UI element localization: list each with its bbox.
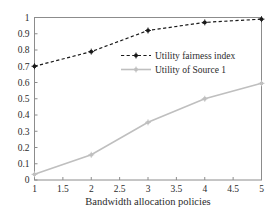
- x-tick-label: 4: [202, 184, 207, 194]
- y-tick-label: 0.2: [18, 143, 30, 153]
- chart-background: [0, 0, 279, 214]
- y-tick-label: 0.9: [18, 29, 30, 39]
- figure-container: 00.10.20.30.40.50.60.70.80.91 11.522.533…: [0, 0, 279, 214]
- y-axis-tick-labels: 00.10.20.30.40.50.60.70.80.91: [18, 13, 30, 186]
- y-tick-label: 0.4: [18, 110, 30, 120]
- y-tick-label: 0.7: [18, 62, 30, 72]
- x-tick-label: 2: [89, 184, 94, 194]
- x-tick-label: 1: [32, 184, 37, 194]
- y-tick-label: 1: [25, 13, 30, 23]
- x-tick-label: 3.5: [170, 184, 182, 194]
- y-tick-label: 0.1: [18, 159, 30, 169]
- x-axis-title: Bandwidth allocation policies: [85, 196, 210, 207]
- legend-label: Utility of Source 1: [155, 65, 226, 75]
- y-tick-label: 0.8: [18, 45, 30, 55]
- y-tick-label: 0: [25, 175, 30, 185]
- x-tick-label: 3: [146, 184, 151, 194]
- x-tick-label: 2.5: [114, 184, 126, 194]
- x-tick-label: 1.5: [57, 184, 69, 194]
- y-tick-label: 0.5: [18, 94, 30, 104]
- y-tick-label: 0.3: [18, 127, 30, 137]
- legend-label: Utility fairness index: [155, 51, 235, 61]
- x-tick-label: 4.5: [227, 184, 239, 194]
- line-chart: 00.10.20.30.40.50.60.70.80.91 11.522.533…: [0, 0, 279, 214]
- y-tick-label: 0.6: [18, 78, 30, 88]
- x-tick-label: 5: [259, 184, 264, 194]
- x-axis-tick-labels: 11.522.533.544.55: [32, 184, 264, 194]
